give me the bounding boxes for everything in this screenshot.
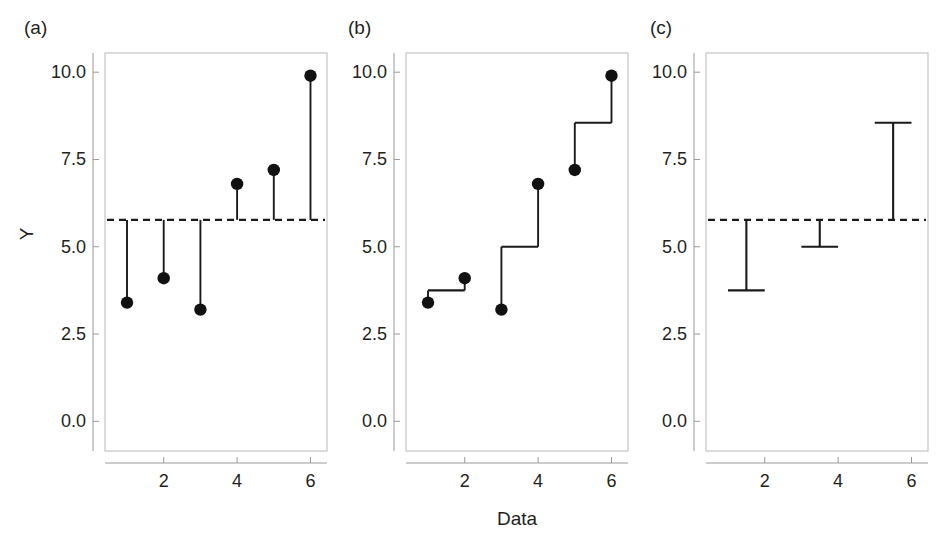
data-point xyxy=(569,164,581,176)
panel-label: (c) xyxy=(650,17,672,38)
y-tick-label: 7.5 xyxy=(61,149,86,169)
data-point xyxy=(268,164,280,176)
y-axis-title: Y xyxy=(16,227,37,240)
x-tick-label: 4 xyxy=(232,471,242,491)
y-tick-label: 2.5 xyxy=(662,324,687,344)
y-tick-label: 10.0 xyxy=(51,62,86,82)
x-axis-title: Data xyxy=(497,508,538,529)
x-tick-label: 4 xyxy=(833,471,843,491)
x-tick-label: 2 xyxy=(460,471,470,491)
panel-label: (b) xyxy=(348,17,371,38)
y-tick-label: 7.5 xyxy=(662,149,687,169)
plot-frame xyxy=(706,53,928,451)
y-tick-label: 5.0 xyxy=(662,237,687,257)
data-point xyxy=(495,303,507,315)
y-tick-label: 0.0 xyxy=(61,411,86,431)
y-tick-label: 2.5 xyxy=(362,324,387,344)
y-tick-label: 5.0 xyxy=(362,237,387,257)
x-tick-label: 6 xyxy=(305,471,315,491)
data-point xyxy=(459,272,471,284)
y-tick-label: 5.0 xyxy=(61,237,86,257)
x-tick-label: 2 xyxy=(760,471,770,491)
plot-frame xyxy=(406,53,628,451)
three-panel-chart: (a)0.02.55.07.510.0246Y(b)0.02.55.07.510… xyxy=(0,0,945,534)
y-tick-label: 0.0 xyxy=(362,411,387,431)
data-point xyxy=(532,178,544,190)
y-tick-label: 10.0 xyxy=(352,62,387,82)
x-tick-label: 6 xyxy=(906,471,916,491)
x-tick-label: 6 xyxy=(606,471,616,491)
data-point xyxy=(422,296,434,308)
y-tick-label: 7.5 xyxy=(362,149,387,169)
data-point xyxy=(231,178,243,190)
y-tick-label: 2.5 xyxy=(61,324,86,344)
data-point xyxy=(121,296,133,308)
panel-label: (a) xyxy=(24,17,47,38)
plot-frame xyxy=(105,53,327,451)
y-tick-label: 0.0 xyxy=(662,411,687,431)
figure-canvas: (a)0.02.55.07.510.0246Y(b)0.02.55.07.510… xyxy=(0,0,945,534)
data-point xyxy=(158,272,170,284)
panel-c: (c)0.02.55.07.510.0246 xyxy=(650,17,928,491)
x-tick-label: 4 xyxy=(533,471,543,491)
data-point xyxy=(605,69,617,81)
data-point xyxy=(194,303,206,315)
panel-a: (a)0.02.55.07.510.0246Y xyxy=(16,17,327,491)
y-tick-label: 10.0 xyxy=(652,62,687,82)
data-point xyxy=(304,69,316,81)
x-tick-label: 2 xyxy=(159,471,169,491)
panel-b: (b)0.02.55.07.510.0246Data xyxy=(348,17,628,529)
